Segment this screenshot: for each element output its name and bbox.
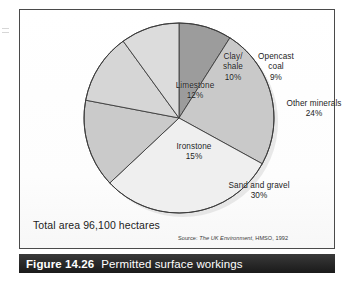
figure-number: Figure 14.26 — [26, 258, 94, 270]
slice-label-other-minerals: Other minerals 24% — [277, 99, 349, 120]
scan-artifact — [2, 26, 9, 35]
source-prefix: Source: — [178, 235, 198, 241]
slice-label-limestone: Limestone 12% — [164, 81, 226, 102]
figure-container: Opencast coal 9% Other minerals 24% Sand… — [0, 0, 349, 281]
slice-label-opencast-coal: Opencast coal 9% — [251, 52, 301, 83]
figure-caption-bar: Figure 14.26 Permitted surface workings — [19, 254, 335, 273]
source-publication-title: The UK Environment — [199, 235, 252, 241]
figure-title: Permitted surface workings — [101, 258, 242, 270]
source-credit: Source: The UK Environment, HMSO, 1992 — [178, 235, 288, 241]
pie-chart: Opencast coal 9% Other minerals 24% Sand… — [79, 18, 281, 220]
slice-label-sand-and-gravel: Sand and gravel 30% — [221, 181, 297, 202]
slice-label-clay-shale: Clay/ shale 10% — [212, 52, 254, 83]
total-area-text: Total area 96,100 hectares — [33, 219, 160, 231]
slice-label-ironstone: Ironstone 15% — [165, 142, 223, 163]
source-rest: , HMSO, 1992 — [252, 235, 288, 241]
